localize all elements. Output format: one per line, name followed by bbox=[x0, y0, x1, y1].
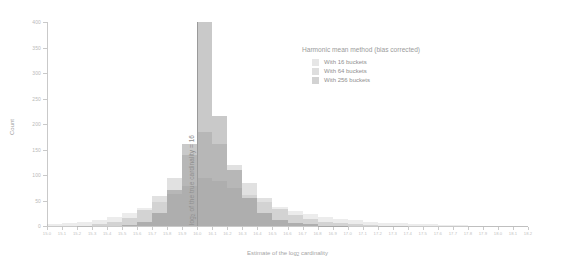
legend-swatch-icon bbox=[312, 68, 319, 75]
x-axis-title: Estimate of the log2 cardinality bbox=[47, 250, 528, 256]
legend-item-label: With 16 buckets bbox=[324, 59, 367, 65]
x-tick-label: 17.1 bbox=[358, 231, 366, 236]
x-tick-mark bbox=[47, 227, 48, 230]
x-tick-mark bbox=[468, 227, 469, 230]
x-tick-mark bbox=[438, 227, 439, 230]
x-tick-label: 15.6 bbox=[133, 231, 141, 236]
x-tick-mark bbox=[227, 227, 228, 230]
legend-item[interactable]: With 64 buckets bbox=[302, 67, 502, 75]
histogram-bar bbox=[348, 224, 363, 226]
histogram-bar bbox=[107, 222, 122, 226]
x-tick-mark bbox=[318, 227, 319, 230]
histogram-bar bbox=[483, 226, 498, 227]
x-tick-label: 17.2 bbox=[374, 231, 382, 236]
x-tick-label: 16.8 bbox=[313, 231, 321, 236]
x-tick-mark bbox=[483, 227, 484, 230]
histogram-bar bbox=[47, 224, 62, 226]
y-tick-label: 400 bbox=[22, 19, 41, 25]
y-tick-label: 300 bbox=[22, 70, 41, 76]
histogram-bar bbox=[423, 224, 438, 226]
x-tick-mark bbox=[498, 227, 499, 230]
x-tick-mark bbox=[107, 227, 108, 230]
x-tick-mark bbox=[167, 227, 168, 230]
histogram-bar bbox=[212, 116, 227, 226]
x-tick-label: 16.0 bbox=[193, 231, 201, 236]
x-tick-label: 17.6 bbox=[434, 231, 442, 236]
x-tick-label: 16.5 bbox=[268, 231, 276, 236]
histogram-bar bbox=[498, 226, 513, 227]
x-tick-label: 15.3 bbox=[88, 231, 96, 236]
y-tick-label: 100 bbox=[22, 172, 41, 178]
histogram-chart: 050100150200250300350400 Count 15.015.11… bbox=[0, 0, 567, 267]
histogram-bar bbox=[257, 213, 272, 226]
histogram-bar bbox=[378, 226, 393, 227]
x-tick-label: 16.2 bbox=[223, 231, 231, 236]
x-axis-title-subscript: 2 bbox=[297, 252, 300, 257]
y-tick-label: 200 bbox=[22, 121, 41, 127]
x-tick-mark bbox=[182, 227, 183, 230]
x-tick-mark bbox=[212, 227, 213, 230]
legend-swatch-icon bbox=[312, 59, 319, 66]
x-tick-mark bbox=[242, 227, 243, 230]
histogram-bar bbox=[513, 226, 528, 227]
x-tick-label: 16.3 bbox=[238, 231, 246, 236]
x-tick-label: 17.8 bbox=[464, 231, 472, 236]
y-tick-label: 250 bbox=[22, 96, 41, 102]
legend-title: Harmonic mean method (bias corrected) bbox=[302, 46, 502, 53]
x-tick-mark bbox=[137, 227, 138, 230]
histogram-bar bbox=[167, 190, 182, 226]
x-tick-label: 18.1 bbox=[509, 231, 517, 236]
x-tick-mark bbox=[62, 227, 63, 230]
x-tick-mark bbox=[453, 227, 454, 230]
y-tick-label: 50 bbox=[22, 198, 41, 204]
x-tick-label: 18.2 bbox=[524, 231, 532, 236]
true-cardinality-reference-line bbox=[197, 22, 198, 226]
x-tick-label: 16.9 bbox=[328, 231, 336, 236]
x-tick-mark bbox=[257, 227, 258, 230]
x-tick-mark bbox=[528, 227, 529, 230]
x-tick-label: 17.0 bbox=[343, 231, 351, 236]
x-tick-mark bbox=[378, 227, 379, 230]
histogram-bar bbox=[227, 170, 242, 226]
y-tick-label: 350 bbox=[22, 45, 41, 51]
legend-swatch-icon bbox=[312, 77, 319, 84]
x-tick-label: 15.2 bbox=[73, 231, 81, 236]
x-tick-label: 15.8 bbox=[163, 231, 171, 236]
x-tick-label: 16.1 bbox=[208, 231, 216, 236]
histogram-bar bbox=[318, 226, 333, 227]
x-tick-mark bbox=[423, 227, 424, 230]
legend-item-label: With 64 buckets bbox=[324, 68, 367, 74]
histogram-bar bbox=[62, 223, 77, 226]
x-tick-mark bbox=[393, 227, 394, 230]
histogram-bar bbox=[408, 224, 423, 226]
histogram-bar bbox=[288, 223, 303, 226]
x-tick-mark bbox=[348, 227, 349, 230]
x-tick-mark bbox=[197, 227, 198, 230]
x-tick-mark bbox=[77, 227, 78, 230]
x-tick-mark bbox=[92, 227, 93, 230]
x-axis-title-tail: cardinality bbox=[299, 250, 328, 256]
legend-item[interactable]: With 256 buckets bbox=[302, 76, 502, 84]
x-tick-mark bbox=[122, 227, 123, 230]
legend-items: With 16 bucketsWith 64 bucketsWith 256 b… bbox=[302, 58, 502, 84]
x-tick-label: 17.5 bbox=[419, 231, 427, 236]
x-tick-mark bbox=[272, 227, 273, 230]
histogram-bar bbox=[242, 198, 257, 226]
histogram-bar bbox=[197, 22, 212, 226]
x-tick-label: 15.9 bbox=[178, 231, 186, 236]
histogram-bar bbox=[137, 222, 152, 226]
annotation-subscript: 2 bbox=[191, 213, 196, 216]
histogram-bar bbox=[363, 225, 378, 226]
x-tick-mark bbox=[363, 227, 364, 230]
x-tick-label: 17.9 bbox=[479, 231, 487, 236]
x-tick-mark bbox=[288, 227, 289, 230]
histogram-bar bbox=[393, 226, 408, 227]
legend: Harmonic mean method (bias corrected) Wi… bbox=[302, 46, 502, 85]
histogram-bar bbox=[453, 225, 468, 226]
x-tick-label: 15.4 bbox=[103, 231, 111, 236]
histogram-bar bbox=[468, 226, 483, 227]
x-tick-label: 17.4 bbox=[404, 231, 412, 236]
legend-item-label: With 256 buckets bbox=[324, 77, 370, 83]
legend-item[interactable]: With 16 buckets bbox=[302, 58, 502, 66]
x-tick-label: 15.1 bbox=[58, 231, 66, 236]
